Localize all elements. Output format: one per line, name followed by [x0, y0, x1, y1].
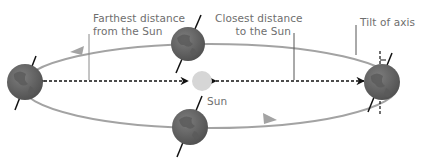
closest-distance-label: Closest distance to the Sun: [215, 12, 291, 38]
orbit-arrow-top-icon: [70, 46, 84, 55]
earth-right-icon: [364, 51, 400, 115]
sun-icon: [192, 71, 212, 91]
orbit-arrow-bottom-icon: [263, 113, 277, 124]
earth-bottom-icon: [172, 96, 208, 157]
farthest-distance-label: Farthest distance from the Sun: [93, 12, 185, 38]
sun-label: Sun: [207, 95, 227, 108]
tilt-of-axis-label: Tilt of axis: [360, 16, 415, 29]
